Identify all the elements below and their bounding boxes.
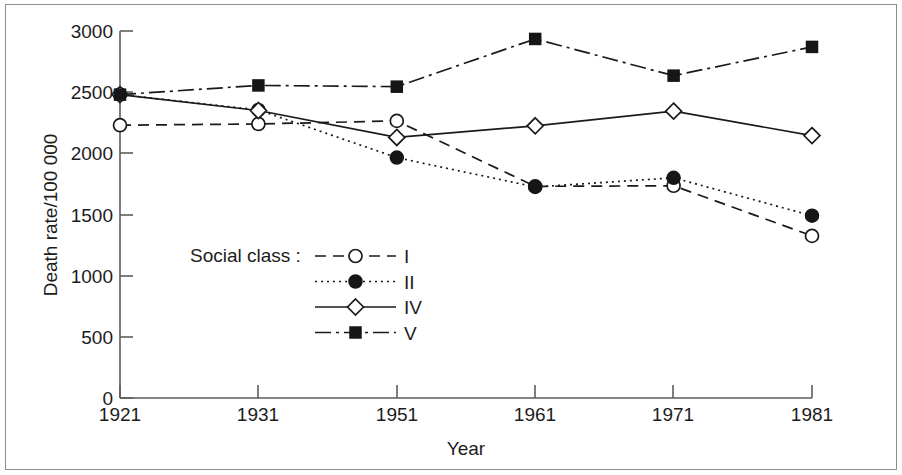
legend-marker-V <box>350 327 361 338</box>
data-point-V-1981 <box>807 41 818 52</box>
chart-canvas: 0 500 1000 1500 2000 2500 3000 1921 1931… <box>0 0 902 475</box>
legend-item-II: II <box>315 272 415 293</box>
x-tick-label-1921: 1921 <box>99 404 141 425</box>
x-tick-label-1961: 1961 <box>514 404 556 425</box>
x-tick-marks <box>120 385 812 398</box>
data-point-I-1951 <box>390 114 403 127</box>
series-I <box>114 114 819 242</box>
legend-label-IV: IV <box>404 297 422 318</box>
legend-marker-II <box>349 275 362 288</box>
y-tick-marks <box>120 31 133 398</box>
legend-label-I: I <box>404 246 409 267</box>
x-tick-label-1951: 1951 <box>376 404 418 425</box>
data-point-I-1981 <box>806 229 819 242</box>
x-tick-label-1981: 1981 <box>791 404 833 425</box>
series-line-IV <box>120 95 812 138</box>
data-series-layer <box>112 33 820 242</box>
data-point-IV-1931 <box>250 103 266 119</box>
data-point-IV-1971 <box>666 103 682 119</box>
y-axis-title: Death rate/100 000 <box>40 134 61 297</box>
series-II <box>114 88 819 222</box>
y-tick-labels: 0 500 1000 1500 2000 2500 3000 <box>71 21 113 409</box>
y-tick-label-2500: 2500 <box>71 82 113 103</box>
x-axis-title: Year <box>447 438 486 459</box>
axes-group <box>120 31 812 398</box>
data-point-I-1921 <box>114 119 127 132</box>
y-tick-label-500: 500 <box>81 327 113 348</box>
legend-label-V: V <box>404 323 417 344</box>
figure-container: 0 500 1000 1500 2000 2500 3000 1921 1931… <box>0 0 902 475</box>
data-point-II-1971 <box>667 171 680 184</box>
legend-marker-I <box>349 250 362 263</box>
data-point-II-1951 <box>390 151 403 164</box>
legend-item-IV: IV <box>315 297 422 318</box>
data-point-II-1961 <box>529 180 542 193</box>
data-point-II-1981 <box>806 209 819 222</box>
x-tick-labels: 1921 1931 1951 1961 1971 1981 <box>99 404 833 425</box>
chart-legend: Social class : IIIIVV <box>190 245 422 344</box>
data-point-V-1931 <box>253 80 264 91</box>
x-tick-label-1931: 1931 <box>237 404 279 425</box>
series-line-I <box>120 121 812 236</box>
series-V <box>115 33 818 100</box>
y-tick-label-2000: 2000 <box>71 143 113 164</box>
legend-marker-IV <box>348 299 364 315</box>
legend-item-V: V <box>315 323 417 344</box>
legend-item-I: I <box>315 246 409 267</box>
y-tick-label-1000: 1000 <box>71 266 113 287</box>
data-point-V-1971 <box>668 70 679 81</box>
series-IV <box>112 87 820 146</box>
y-tick-label-1500: 1500 <box>71 205 113 226</box>
data-point-IV-1951 <box>389 129 405 145</box>
y-tick-label-3000: 3000 <box>71 21 113 42</box>
data-point-IV-1961 <box>527 118 543 134</box>
data-point-IV-1981 <box>804 128 820 144</box>
legend-label-II: II <box>404 272 415 293</box>
data-point-V-1951 <box>391 81 402 92</box>
legend-title: Social class : <box>190 245 301 266</box>
x-tick-label-1971: 1971 <box>652 404 694 425</box>
data-point-V-1921 <box>115 89 126 100</box>
series-line-V <box>120 39 812 95</box>
data-point-V-1961 <box>530 33 541 44</box>
legend-items: IIIIVV <box>315 246 422 344</box>
